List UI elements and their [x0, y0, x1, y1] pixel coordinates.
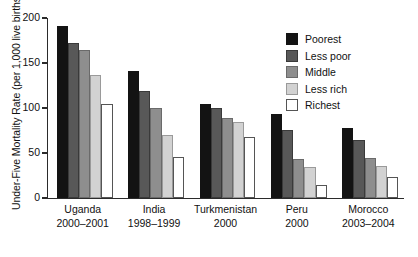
- legend-swatch: [286, 99, 298, 111]
- bar: [211, 108, 222, 198]
- y-tick-label: 100: [22, 101, 40, 114]
- bar: [101, 104, 112, 199]
- bar: [293, 159, 304, 198]
- bar: [376, 166, 387, 198]
- legend-label: Middle: [305, 66, 336, 78]
- legend-label: Poorest: [305, 33, 341, 45]
- x-axis-label-country: Uganda: [64, 203, 101, 215]
- legend-item: Richest: [286, 97, 351, 114]
- x-axis-label-country: India: [143, 203, 166, 215]
- legend-label: Less poor: [305, 50, 351, 62]
- legend-swatch: [286, 83, 298, 95]
- bar-group: [128, 18, 184, 198]
- bar: [387, 177, 398, 198]
- bar: [162, 135, 173, 198]
- legend-item: Less poor: [286, 48, 351, 65]
- bar-group: [200, 18, 256, 198]
- x-axis-label-country: Peru: [286, 203, 308, 215]
- x-axis-label-years: 1998–1999: [118, 217, 189, 231]
- legend-item: Poorest: [286, 31, 351, 48]
- legend-item: Middle: [286, 64, 351, 81]
- y-tick-mark: [42, 107, 47, 108]
- y-axis-line: [47, 18, 48, 199]
- bar: [68, 43, 79, 198]
- y-tick-label: 200: [22, 11, 40, 24]
- y-tick-mark: [42, 17, 47, 18]
- legend-swatch: [286, 66, 298, 78]
- bar-group: [57, 18, 113, 198]
- y-tick-label: 50: [28, 146, 40, 159]
- legend-swatch: [286, 50, 298, 62]
- x-axis-label: India1998–1999: [118, 203, 189, 230]
- bar: [79, 50, 90, 198]
- x-axis-label: Peru2000: [261, 203, 332, 230]
- bar: [57, 26, 68, 198]
- x-axis-label-country: Morocco: [348, 203, 388, 215]
- bar: [304, 167, 315, 198]
- x-axis-label-years: 2000–2001: [47, 217, 118, 231]
- x-axis-label: Uganda2000–2001: [47, 203, 118, 230]
- y-tick-mark: [42, 197, 47, 198]
- bar: [90, 75, 101, 198]
- bar: [353, 140, 364, 199]
- x-axis-label-country: Turkmenistan: [194, 203, 257, 215]
- bar: [200, 104, 211, 199]
- x-axis-label-years: 2003–2004: [333, 217, 404, 231]
- y-tick-label: 150: [22, 56, 40, 69]
- x-axis-label-years: 2000: [261, 217, 332, 231]
- y-tick-mark: [42, 62, 47, 63]
- bar: [128, 71, 139, 198]
- legend-swatch: [286, 33, 298, 45]
- bar: [139, 91, 150, 198]
- legend-item: Less rich: [286, 81, 351, 98]
- bar: [244, 137, 255, 198]
- bar: [150, 108, 161, 198]
- bar: [342, 128, 353, 198]
- bar: [365, 158, 376, 198]
- y-tick-mark: [42, 152, 47, 153]
- x-axis-line: [47, 198, 404, 199]
- x-axis-label: Morocco2003–2004: [333, 203, 404, 230]
- legend-label: Richest: [305, 99, 340, 111]
- bar: [282, 130, 293, 198]
- x-axis-label-years: 2000: [190, 217, 261, 231]
- bar: [271, 114, 282, 198]
- x-axis-label: Turkmenistan2000: [190, 203, 261, 230]
- bar: [233, 122, 244, 198]
- y-axis-title: Under-Five Mortality Rate (per 1,000 liv…: [10, 10, 22, 210]
- bar: [222, 118, 233, 198]
- bar: [173, 157, 184, 198]
- bar: [316, 185, 327, 198]
- legend: PoorestLess poorMiddleLess richRichest: [286, 31, 351, 114]
- y-tick-label: 0: [34, 191, 40, 204]
- legend-label: Less rich: [305, 83, 347, 95]
- under-five-mortality-bar-chart: Under-Five Mortality Rate (per 1,000 liv…: [0, 0, 418, 257]
